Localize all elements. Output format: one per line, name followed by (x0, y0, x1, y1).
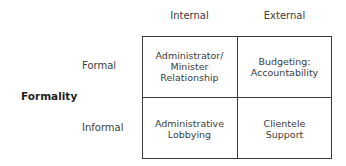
row-header-informal: Informal (82, 122, 124, 133)
axis-label-formality: Formality (21, 90, 77, 102)
column-header-internal: Internal (142, 10, 237, 21)
cell-formal-internal: Administrator/ Minister Relationship (142, 36, 237, 97)
cell-formal-external: Budgeting: Accountability (237, 36, 332, 97)
column-header-external: External (237, 10, 332, 21)
row-header-formal: Formal (82, 60, 116, 71)
cell-informal-internal: Administrative Lobbying (142, 98, 237, 159)
cell-informal-external: Clientele Support (237, 98, 332, 159)
